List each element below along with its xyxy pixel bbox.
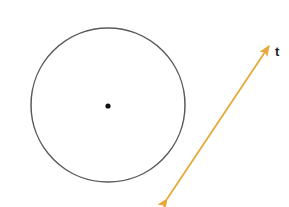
- figure-canvas: t: [0, 0, 289, 207]
- geometry-diagram: [0, 0, 289, 207]
- line-t-label: t: [275, 45, 279, 58]
- center-point-dot: [105, 103, 110, 108]
